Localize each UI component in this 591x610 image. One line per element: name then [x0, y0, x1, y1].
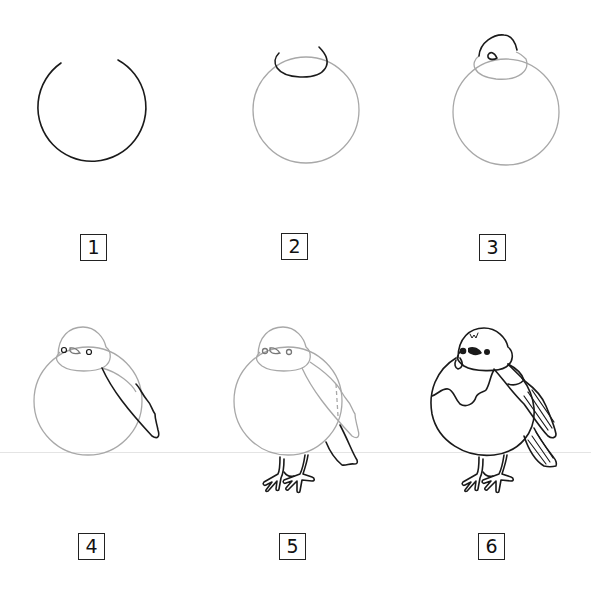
- step-number-5: 5: [279, 533, 306, 560]
- step-3-drawing: [453, 35, 559, 165]
- step-5-drawing: [234, 327, 359, 493]
- step-number-6: 6: [478, 533, 505, 560]
- step-4-drawing: [34, 327, 159, 455]
- step-6-drawing: [431, 328, 556, 493]
- drawing-tutorial-sheet: 1 2 3 4 5 6: [0, 0, 591, 610]
- step-number-3: 3: [479, 234, 506, 261]
- bird-drawing-steps: [0, 0, 591, 610]
- step-number-4: 4: [78, 533, 105, 560]
- step-2-drawing: [253, 47, 359, 163]
- step-number-1: 1: [80, 234, 107, 261]
- step-number-2: 2: [281, 233, 308, 260]
- step-1-drawing: [38, 60, 146, 161]
